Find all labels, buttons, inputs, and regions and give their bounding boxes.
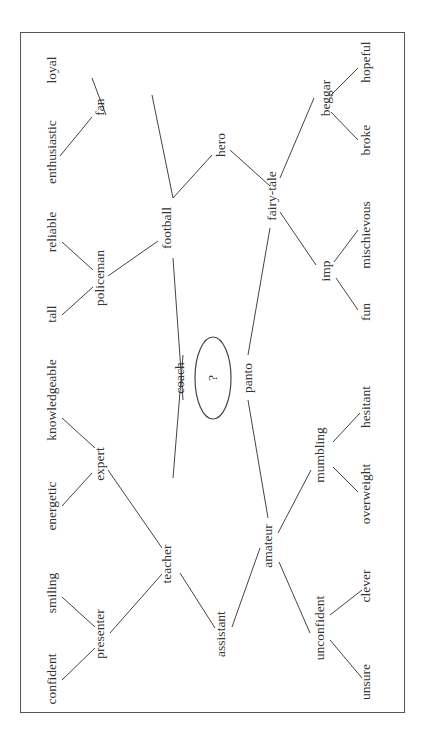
edge-line (333, 413, 360, 442)
edge-line (62, 597, 95, 627)
node-fairy-tale: fairy-tale (264, 171, 280, 220)
edge-line (62, 418, 95, 448)
node-loyal: loyal (44, 57, 60, 84)
edge-line (331, 112, 358, 140)
edge-line (333, 467, 358, 492)
node-broke: broke (358, 125, 374, 156)
edge-line (331, 68, 358, 95)
node-amateur: amateur (260, 524, 276, 567)
edge-line (108, 241, 158, 276)
edge-line (280, 212, 316, 265)
node-confident: confident (44, 654, 60, 705)
edge-line (248, 228, 270, 355)
edge-line (62, 287, 93, 315)
node-coach: coach (172, 362, 188, 393)
node-overweight: overweight (358, 464, 374, 525)
edge-line (173, 155, 212, 198)
edge-line (336, 278, 358, 310)
edge-line (108, 470, 162, 548)
edge-line (62, 242, 93, 270)
node-imp: imp (318, 260, 334, 281)
edge-line (232, 548, 260, 627)
edge-line (280, 98, 314, 178)
node-mischievous: mischievous (358, 201, 374, 269)
node-tall: tall (44, 305, 60, 322)
edge-line (278, 470, 311, 533)
node-enthusiastic: enthusiastic (44, 120, 60, 184)
edge-line (60, 117, 92, 156)
edge-line (110, 574, 162, 633)
edge-line (62, 648, 95, 680)
node-hopeful: hopeful (358, 41, 374, 82)
node-unsure: unsure (358, 664, 374, 700)
edge-line (248, 400, 268, 518)
node-fan: fan (92, 98, 108, 115)
node-hero: hero (213, 133, 229, 157)
node-hesitant: hesitant (358, 386, 374, 428)
node-policeman: policeman (92, 250, 108, 306)
node-teacher: teacher (159, 545, 175, 584)
edge-line (279, 562, 310, 633)
edge-line (62, 473, 92, 506)
node-mumbling: mumbling (312, 427, 328, 483)
node-unconfident: unconfident (312, 596, 328, 660)
node-beggar: beggar (318, 80, 334, 117)
node-panto: panto (240, 363, 256, 393)
node-assistant: assistant (213, 611, 229, 657)
node-presenter: presenter (92, 609, 108, 658)
node-knowledgeable: knowledgeable (44, 359, 60, 441)
edge-line (152, 95, 173, 198)
node-fun: fun (358, 303, 374, 321)
edge-line (334, 230, 358, 262)
node-expert: expert (92, 447, 108, 481)
node-energetic: energetic (44, 481, 60, 530)
center-question-mark: ? (205, 375, 221, 381)
node-reliable: reliable (44, 212, 60, 252)
node-smiling: smiling (44, 573, 60, 614)
node-clever: clever (358, 570, 374, 603)
node-football: football (159, 207, 175, 249)
edge-line (180, 573, 215, 628)
